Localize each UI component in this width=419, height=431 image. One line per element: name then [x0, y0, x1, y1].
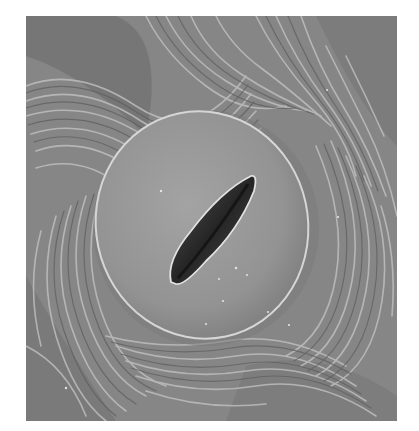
micrograph-frame [26, 16, 397, 421]
stoma-micrograph [26, 16, 397, 421]
